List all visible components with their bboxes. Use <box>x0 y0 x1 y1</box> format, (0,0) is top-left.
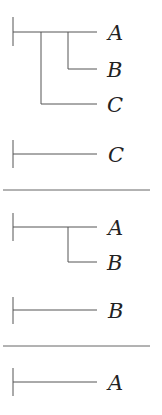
leaf-label-b: B <box>107 299 123 323</box>
leaf-label-b: B <box>106 251 122 275</box>
panel-subtree-c: C <box>13 140 124 168</box>
leaf-label-a: A <box>106 21 123 45</box>
panel-subtree-ab: A B <box>13 213 123 275</box>
tree-diagram: A B C C A B B A <box>0 0 162 415</box>
leaf-label-a: A <box>106 371 123 395</box>
leaf-label-c: C <box>107 93 123 117</box>
leaf-label-a: A <box>106 216 123 240</box>
panel-subtree-b: B <box>13 297 123 324</box>
leaf-label-c: C <box>108 143 124 167</box>
panel-full-tree: A B C <box>13 17 123 117</box>
leaf-label-b: B <box>106 58 122 82</box>
panel-subtree-a: A <box>13 368 123 396</box>
